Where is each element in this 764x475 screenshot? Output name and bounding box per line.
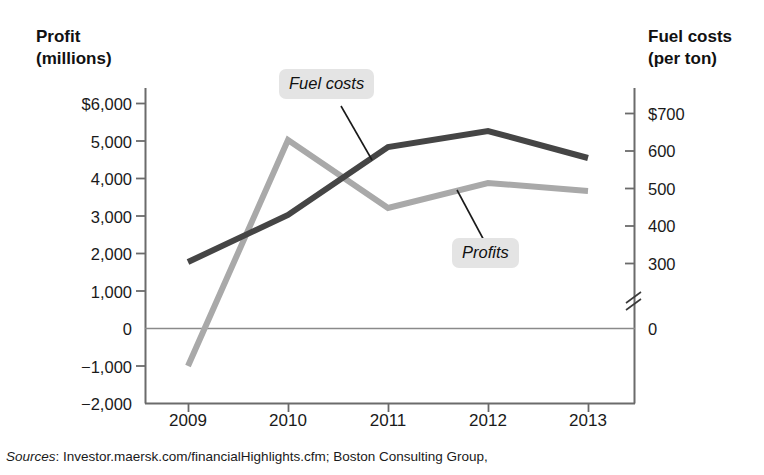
right-axis-ticks <box>625 114 634 264</box>
chart-figure: Profit (millions) Fuel costs (per ton) $… <box>0 0 764 475</box>
source-separator: : <box>56 449 64 464</box>
callout-leader-fuel-costs <box>341 106 372 160</box>
chart-plot-area <box>0 0 764 475</box>
source-label: Sources <box>6 449 56 464</box>
source-text: Investor.maersk.com/financialHighlights.… <box>63 449 488 464</box>
callout-profits: Profits <box>452 238 519 268</box>
callout-fuel-costs: Fuel costs <box>279 69 374 99</box>
series-line-profits <box>188 140 588 366</box>
left-axis-ticks <box>136 104 145 367</box>
source-note: Sources: Investor.maersk.com/financialHi… <box>6 448 488 465</box>
series-line-fuel-costs <box>188 131 588 262</box>
